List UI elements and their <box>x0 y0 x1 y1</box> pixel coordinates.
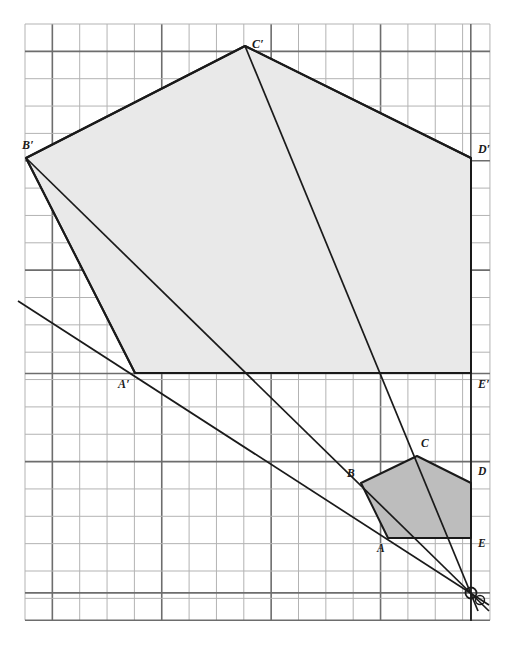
vertex-label-c-prime: C′ <box>252 38 264 50</box>
vertex-label-e: E <box>478 538 486 550</box>
vertex-label-d-prime: D′ <box>478 143 490 155</box>
dilation-figure <box>0 0 520 646</box>
vertex-label-b: B <box>347 468 355 480</box>
preimage-pentagon <box>361 456 471 538</box>
preimage-pentagon-layer <box>361 456 471 538</box>
vertex-label-e-prime: E′ <box>478 378 490 390</box>
vertex-label-b-prime: B′ <box>22 139 34 151</box>
vertex-label-d: D <box>478 466 487 478</box>
vertex-label-a: A <box>377 543 385 555</box>
vertex-label-c: C <box>421 438 429 450</box>
vertex-label-a-prime: A′ <box>118 378 130 390</box>
image-pentagon <box>26 46 471 373</box>
image-pentagon-layer <box>26 46 471 373</box>
geometry-diagram: ABCDEA′B′C′D′E′ <box>0 0 520 646</box>
